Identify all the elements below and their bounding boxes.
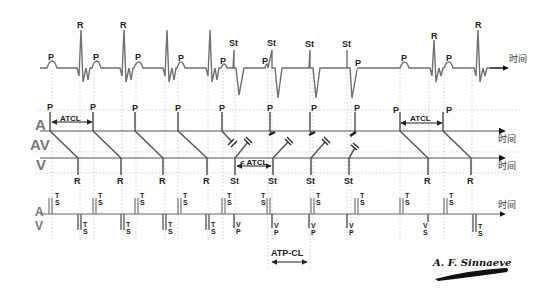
ladder-p-label: P [47, 102, 53, 112]
marker-row-label-v: V [35, 219, 43, 233]
ladder-v-label: R [74, 176, 81, 186]
ts-label: T [449, 192, 454, 199]
ecg-label-p: P [135, 52, 141, 62]
atp-cl-label: ATP-CL [271, 248, 304, 258]
ecg-label-r: R [475, 20, 482, 30]
ecg-label-p: P [446, 53, 452, 63]
ts-label: T [261, 192, 266, 199]
ecg-label-p: P [262, 56, 268, 66]
ladder-p-label: P [90, 102, 96, 112]
vp-label: V [311, 222, 316, 229]
atp-timing-diagram: 时间 P R P R P P P St P St St St P P R P R… [0, 0, 546, 296]
ecg-labels: P R P R P P P St P St St St P P R P R [48, 20, 482, 68]
vts-label: T [478, 223, 483, 230]
vts-label: S [126, 228, 131, 235]
block-marks [228, 132, 359, 150]
ladder-p-labels: P P P P P P P P P P [47, 102, 452, 115]
vts-label: T [168, 221, 173, 228]
ts-label: T [98, 192, 103, 199]
ts-label: S [183, 199, 188, 206]
ecg-label-p: P [355, 58, 361, 68]
ecg-label-st: St [305, 39, 314, 49]
ecg-label-p: P [178, 53, 184, 63]
ladder-v-label: St [268, 176, 277, 186]
vp-label: P [349, 229, 354, 236]
ladder-p-label: P [132, 103, 138, 113]
horizontal-guides [36, 110, 520, 173]
ts-label: T [183, 192, 188, 199]
vertical-guides [52, 70, 472, 270]
ts-label: T [55, 192, 60, 199]
ladder-axes [40, 131, 505, 158]
ladder-v-label: St [230, 176, 239, 186]
vp-label: P [311, 229, 316, 236]
ts-label: S [55, 199, 60, 206]
vts-label: S [168, 228, 173, 235]
atrial-sense-markers [49, 198, 447, 214]
vts-label: S [478, 230, 483, 237]
ts-label: S [405, 199, 410, 206]
ladder-v-label: R [159, 176, 166, 186]
ladder-v-labels: R R R R St St St St R R [74, 176, 474, 186]
atcl-label-2: < ATCL [240, 158, 267, 167]
ecg-label-st: St [342, 39, 351, 49]
marker-row-label-a: A [35, 205, 44, 219]
ecg-label-st: St [229, 38, 238, 48]
ts-label: S [98, 199, 103, 206]
atrial-sense-labels: TS TS TS TS TS TS TS TS TS TS [55, 192, 454, 206]
ecg-label-p: P [48, 52, 54, 62]
ts-label: S [360, 199, 365, 206]
ts-label: S [449, 199, 454, 206]
ladder-p-label: P [311, 103, 317, 113]
ladder-p-label: P [446, 105, 452, 115]
ecg-label-p: P [401, 53, 407, 63]
ladder-v-time-label: 时间 [498, 160, 516, 171]
ladder-p-label: P [393, 105, 399, 115]
ventricular-pace-markers [234, 214, 428, 228]
ts-label: T [140, 192, 145, 199]
ladder-v-label: R [117, 176, 124, 186]
ecg-label-p: P [93, 52, 99, 62]
ladder-p-label: P [219, 103, 225, 113]
vp-label: V [274, 222, 279, 229]
row-label-av: AV [30, 136, 50, 153]
ladder-v-label: St [344, 176, 353, 186]
vts-label: T [211, 221, 216, 228]
ecg-label-r: R [77, 20, 84, 30]
ecg-label-r: R [120, 20, 127, 30]
vs-label: S [423, 229, 428, 236]
ventricular-pace-labels: VP VP VP VP VS [236, 221, 428, 236]
vs-label: V [423, 222, 428, 229]
vp-label: V [236, 221, 241, 228]
ts-label: S [316, 199, 321, 206]
ts-label: T [316, 192, 321, 199]
ladder-v-label: St [306, 176, 315, 186]
marker-time-label: 时间 [498, 199, 516, 210]
vts-label: S [83, 228, 88, 235]
signature-swoosh [435, 268, 508, 281]
ladder-a-time-label: 时间 [498, 133, 516, 144]
atcl-label-3: ATCL [410, 114, 431, 123]
ladder-v-label: R [467, 176, 474, 186]
ecg-label-st: St [267, 38, 276, 48]
ecg-time-label: 时间 [509, 53, 527, 64]
ts-label: S [140, 199, 145, 206]
ts-label: T [227, 192, 232, 199]
ladder-v-label: R [203, 176, 210, 186]
atcl-label-1: ATCL [60, 114, 81, 123]
ts-label: S [227, 199, 232, 206]
ts-label: S [261, 199, 266, 206]
ladder-v-label: R [424, 176, 431, 186]
vts-label: S [211, 228, 216, 235]
vts-label: T [83, 221, 88, 228]
vp-label: V [349, 222, 354, 229]
diagram-svg: 时间 P R P R P P P St P St St St P P R P R… [0, 0, 546, 296]
vp-label: P [274, 229, 279, 236]
ecg-label-p: P [220, 56, 226, 66]
vts-label: T [126, 221, 131, 228]
ladder-p-label: P [354, 103, 360, 113]
ecg-label-r: R [431, 31, 438, 41]
ladder-p-label: P [175, 103, 181, 113]
author-signature: A. F. Sinnaeve [432, 257, 511, 268]
ts-label: T [405, 192, 410, 199]
